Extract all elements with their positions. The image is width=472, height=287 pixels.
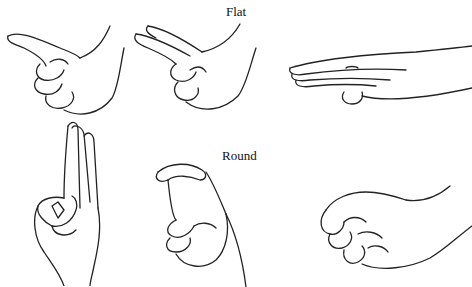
c-curve-hand-drawing: [150, 160, 260, 287]
pointing-flat-hand-drawing: [0, 18, 130, 128]
two-finger-flat-hand-drawing: [128, 18, 268, 128]
o-ring-hand-drawing: [28, 118, 118, 286]
curled-fist-hand-drawing: [310, 176, 472, 276]
flat-palm-hand-drawing: [286, 40, 472, 110]
